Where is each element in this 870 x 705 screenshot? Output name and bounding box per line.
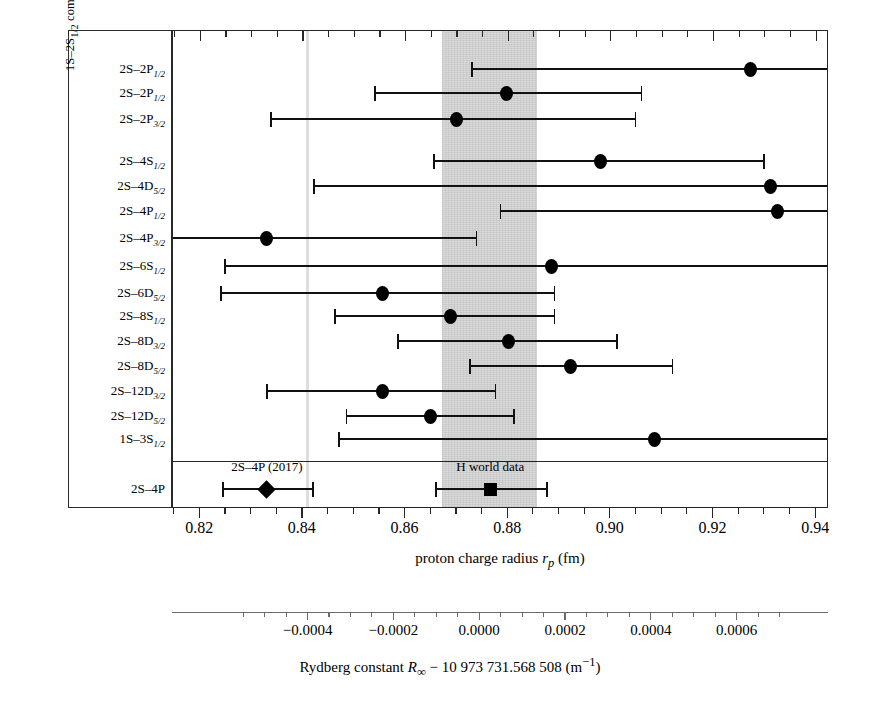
error-bar-cap-high bbox=[763, 154, 765, 169]
note-2s4p-2017: 2S–4P (2017) bbox=[177, 459, 357, 475]
secondary-minor-tick bbox=[522, 612, 523, 617]
minor-tick bbox=[379, 31, 380, 37]
minor-tick bbox=[585, 31, 586, 37]
secondary-minor-tick bbox=[607, 612, 608, 617]
data-point-marker[interactable] bbox=[500, 86, 513, 101]
secondary-minor-tick bbox=[500, 612, 501, 617]
secondary-minor-tick bbox=[243, 612, 244, 617]
secondary-minor-tick bbox=[586, 612, 587, 617]
error-bar bbox=[314, 185, 828, 187]
minor-tick bbox=[455, 508, 456, 514]
error-bar-cap-low bbox=[224, 259, 226, 274]
minor-tick bbox=[354, 31, 355, 37]
error-bar-cap-low bbox=[374, 86, 376, 101]
data-point-marker[interactable] bbox=[260, 231, 273, 246]
secondary-minor-tick bbox=[693, 612, 694, 617]
error-bar-cap-low bbox=[435, 482, 437, 497]
secondary-minor-tick bbox=[457, 612, 458, 617]
row-label: 2S–4S1/2 bbox=[120, 154, 165, 171]
secondary-minor-tick bbox=[436, 612, 437, 617]
row-label: 2S–12D3/2 bbox=[111, 384, 165, 401]
error-bar-cap-low bbox=[471, 62, 473, 77]
data-point-marker[interactable] bbox=[545, 259, 558, 274]
minor-tick bbox=[225, 31, 226, 37]
error-bar-cap-high bbox=[616, 334, 618, 349]
error-bar-cap-high bbox=[635, 112, 637, 127]
data-point-marker[interactable] bbox=[564, 359, 577, 374]
minor-tick bbox=[789, 508, 790, 514]
row-label: 2S–6S1/2 bbox=[120, 259, 165, 276]
data-point-marker[interactable] bbox=[764, 179, 777, 194]
major-tick bbox=[815, 508, 816, 518]
error-bar-cap-low bbox=[222, 482, 224, 497]
data-point-marker[interactable] bbox=[444, 309, 457, 324]
error-bar-cap-high bbox=[672, 359, 674, 374]
minor-tick bbox=[558, 508, 559, 514]
secondary-minor-tick bbox=[715, 612, 716, 617]
secondary-minor-tick bbox=[286, 612, 287, 617]
major-tick bbox=[508, 31, 509, 41]
error-bar-cap-low bbox=[346, 409, 348, 424]
error-bar-cap-low bbox=[313, 179, 315, 194]
primary-x-axis-label: proton charge radius rp (fm) bbox=[172, 550, 828, 571]
minor-tick bbox=[173, 508, 174, 514]
error-bar-cap-high bbox=[513, 409, 515, 424]
major-tick bbox=[404, 508, 405, 518]
minor-tick bbox=[430, 508, 431, 514]
error-bar-cap-high bbox=[554, 286, 556, 301]
error-bar-cap-low bbox=[334, 309, 336, 324]
muonic-hydrogen-line bbox=[306, 31, 309, 507]
data-point-marker[interactable] bbox=[258, 480, 276, 498]
secondary-minor-tick bbox=[371, 612, 372, 617]
data-point-marker[interactable] bbox=[771, 204, 784, 219]
minor-tick bbox=[327, 508, 328, 514]
row-label-panel: 1S–2S1/2 combined with nS–n'ℓ 2S–2P1/22S… bbox=[68, 30, 172, 508]
secondary-minor-tick bbox=[328, 612, 329, 617]
error-bar bbox=[472, 68, 828, 70]
secondary-minor-tick bbox=[629, 612, 630, 617]
error-bar-cap-high bbox=[312, 482, 314, 497]
primary-tick-label: 0.86 bbox=[391, 519, 419, 537]
minor-tick bbox=[456, 31, 457, 37]
row-label: 2S–2P1/2 bbox=[120, 86, 165, 103]
data-point-marker[interactable] bbox=[594, 154, 607, 169]
primary-tick-label: 0.90 bbox=[596, 519, 624, 537]
h-world-data-band bbox=[442, 31, 537, 507]
row-label: 2S–4P bbox=[131, 482, 165, 495]
data-point-marker[interactable] bbox=[744, 62, 757, 77]
minor-tick bbox=[661, 508, 662, 514]
summary-point-marker[interactable] bbox=[484, 483, 497, 496]
minor-tick bbox=[532, 508, 533, 514]
error-bar-cap-low bbox=[338, 432, 340, 447]
secondary-tick-label: 0.0004 bbox=[630, 622, 671, 639]
minor-tick bbox=[738, 508, 739, 514]
data-point-marker[interactable] bbox=[450, 112, 463, 127]
major-tick bbox=[713, 31, 714, 41]
data-point-marker[interactable] bbox=[376, 286, 389, 301]
secondary-x-axis-label: Rydberg constant R∞ − 10 973 731.568 508… bbox=[100, 655, 800, 680]
minor-tick bbox=[353, 508, 354, 514]
error-bar-cap-high bbox=[476, 231, 478, 246]
data-point-marker[interactable] bbox=[502, 334, 515, 349]
secondary-major-tick bbox=[564, 612, 565, 620]
minor-tick bbox=[328, 31, 329, 37]
data-point-marker[interactable] bbox=[648, 432, 661, 447]
secondary-tick-label: 0.0002 bbox=[544, 622, 585, 639]
minor-tick bbox=[378, 508, 379, 514]
minor-tick bbox=[636, 31, 637, 37]
minor-tick bbox=[635, 508, 636, 514]
data-point-marker[interactable] bbox=[376, 384, 389, 399]
secondary-major-tick bbox=[393, 612, 394, 620]
error-bar-cap-high bbox=[641, 86, 643, 101]
error-bar-cap-low bbox=[270, 112, 272, 127]
secondary-minor-tick bbox=[350, 612, 351, 617]
major-tick bbox=[712, 508, 713, 518]
minor-tick bbox=[662, 31, 663, 37]
data-point-marker[interactable] bbox=[424, 409, 437, 424]
minor-tick bbox=[533, 31, 534, 37]
error-bar bbox=[172, 237, 476, 239]
primary-tick-label: 0.84 bbox=[288, 519, 316, 537]
secondary-minor-tick bbox=[264, 612, 265, 617]
row-label: 2S–2P1/2 bbox=[120, 62, 165, 79]
secondary-major-tick bbox=[307, 612, 308, 620]
